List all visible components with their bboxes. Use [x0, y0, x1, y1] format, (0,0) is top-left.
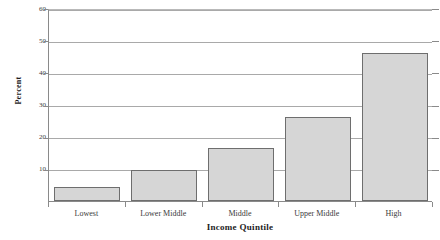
clipped-text-fragment-c: · [312, 0, 315, 3]
y-axis-tick-label: 20 [22, 134, 46, 141]
gridline [49, 42, 432, 43]
y-axis-tick-label: 40 [22, 70, 46, 77]
y-axis-tick-label: 10 [22, 166, 46, 173]
y-axis-tick-mark-right [432, 170, 439, 171]
x-axis-tick-mark [125, 202, 126, 207]
x-axis-tick-mark [202, 202, 203, 207]
clipped-text-fragment-b: · [196, 0, 199, 3]
gridline [49, 10, 432, 11]
x-axis-label: Income Quintile [48, 222, 432, 232]
y-axis-tick-mark-right [432, 41, 439, 42]
y-axis-tick-mark-right [432, 138, 439, 139]
clipped-header-text: · · · [0, 0, 440, 6]
x-axis-tick-label: High [355, 209, 432, 218]
bar-chart: · · · Percent 102030405060 LowestLower M… [0, 0, 440, 240]
x-axis-tick-label: Upper Middle [278, 209, 355, 218]
y-axis-tick-mark-right [432, 106, 439, 107]
bar [208, 148, 274, 201]
bar [131, 170, 197, 201]
x-axis-tick-mark [432, 202, 433, 207]
plot-area [48, 9, 432, 202]
x-axis-tick-label: Middle [202, 209, 279, 218]
bar [285, 117, 351, 201]
x-axis-tick-mark [48, 202, 49, 207]
y-axis-tick-label: 60 [22, 6, 46, 13]
y-axis-tick-mark-right [432, 9, 439, 10]
x-axis-tick-label: Lower Middle [125, 209, 202, 218]
y-axis-tick-label: 30 [22, 102, 46, 109]
bar [54, 187, 120, 201]
x-axis-tick-mark [355, 202, 356, 207]
clipped-text-fragment-a: · [60, 0, 63, 3]
y-axis-tick-mark-right [432, 73, 439, 74]
y-axis-tick-label: 50 [22, 38, 46, 45]
x-axis-tick-mark [278, 202, 279, 207]
x-axis-tick-label: Lowest [48, 209, 125, 218]
bar [362, 53, 428, 201]
